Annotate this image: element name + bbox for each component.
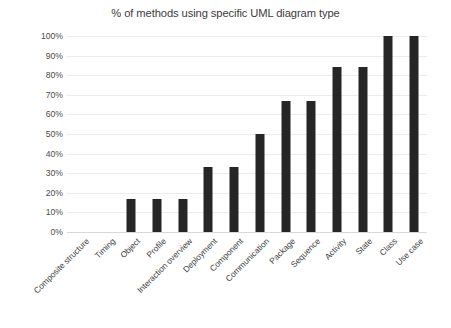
y-axis-tick-label: 80% [0, 70, 63, 80]
chart-container: % of methods using specific UML diagram … [0, 0, 451, 328]
y-axis-tick-label: 10% [0, 207, 63, 217]
bar [255, 134, 264, 232]
bar [178, 199, 187, 232]
chart-title: % of methods using specific UML diagram … [0, 7, 451, 19]
bar [410, 36, 419, 232]
bar [153, 199, 162, 232]
y-axis-tick-label: 90% [0, 51, 63, 61]
x-axis-tick-label: Activity [323, 236, 349, 262]
plot-area [67, 36, 427, 232]
x-axis-tick-label: Timing [92, 236, 116, 260]
y-axis-tick-label: 40% [0, 149, 63, 159]
y-axis-tick-label: 20% [0, 188, 63, 198]
bar-series [67, 36, 427, 232]
bar [358, 67, 367, 232]
x-axis-tick-label: Object [118, 236, 142, 260]
x-axis-tick-label: Profile [144, 236, 168, 260]
y-axis: 0%10%20%30%40%50%60%70%80%90%100% [0, 36, 63, 232]
bar [204, 167, 213, 232]
x-axis: Composite structureTimingObjectProfileIn… [67, 232, 427, 328]
y-axis-tick-label: 70% [0, 90, 63, 100]
x-axis-tick-label: Composite structure [32, 236, 91, 295]
y-axis-tick-label: 50% [0, 129, 63, 139]
bar [384, 36, 393, 232]
y-axis-tick-label: 30% [0, 168, 63, 178]
bar [127, 199, 136, 232]
y-axis-tick-label: 0% [0, 227, 63, 237]
bar [333, 67, 342, 232]
x-axis-tick-label: Use case [394, 236, 425, 267]
y-axis-tick-label: 100% [0, 31, 63, 41]
y-axis-tick-label: 60% [0, 109, 63, 119]
bar [281, 101, 290, 232]
x-axis-tick-label: State [353, 236, 374, 257]
bar [230, 167, 239, 232]
bar [307, 101, 316, 232]
x-axis-tick-label: Class [378, 236, 400, 258]
